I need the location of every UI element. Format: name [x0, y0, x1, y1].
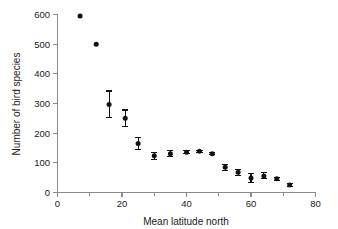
data-point — [287, 183, 293, 188]
data-point — [167, 151, 173, 157]
data-point — [261, 173, 267, 179]
marker-dot — [249, 175, 254, 180]
marker-dot — [223, 165, 228, 170]
y-tick-label: 400 — [34, 68, 50, 79]
data-point — [196, 149, 202, 154]
scatter-plot: 0100200300400500600020406080 Mean latitu… — [0, 0, 338, 229]
x-tick-label: 80 — [310, 198, 321, 209]
x-tick-label: 60 — [246, 198, 257, 209]
data-point — [151, 152, 157, 159]
data-point — [135, 138, 141, 150]
y-tick-label: 600 — [34, 9, 50, 20]
marker-dot — [210, 151, 215, 156]
data-point — [183, 150, 189, 155]
x-tick-label: 20 — [117, 198, 128, 209]
data-point — [209, 151, 215, 156]
y-tick-label: 500 — [34, 39, 50, 50]
data-point — [222, 164, 228, 170]
data-point — [235, 169, 241, 175]
y-tick-label: 100 — [34, 157, 50, 168]
marker-dot — [197, 149, 202, 154]
axes — [58, 15, 316, 193]
data-point — [122, 110, 128, 127]
marker-dot — [107, 102, 112, 107]
marker-dot — [236, 170, 241, 175]
axis-spines — [58, 15, 316, 193]
x-tick-label: 40 — [181, 198, 192, 209]
y-axis-title: Number of bird species — [11, 53, 22, 156]
y-tick-label: 0 — [45, 187, 50, 198]
x-axis-title: Mean latitude north — [143, 216, 229, 227]
marker-dot — [94, 42, 99, 47]
marker-dot — [168, 151, 173, 156]
y-tick-label: 200 — [34, 128, 50, 139]
x-tick-label: 0 — [55, 198, 60, 209]
data-point — [106, 91, 112, 118]
marker-dot — [136, 141, 141, 146]
axis-ticks — [53, 15, 316, 198]
data-point — [248, 174, 254, 182]
marker-dot — [123, 116, 128, 121]
data-points — [78, 13, 293, 187]
marker-dot — [184, 150, 189, 155]
marker-dot — [261, 173, 266, 178]
data-point — [78, 13, 83, 18]
marker-dot — [152, 153, 157, 158]
marker-dot — [287, 183, 292, 188]
marker-dot — [78, 13, 83, 18]
data-point — [94, 42, 99, 47]
chart-figure: 0100200300400500600020406080 Mean latitu… — [0, 0, 338, 229]
y-tick-label: 300 — [34, 98, 50, 109]
marker-dot — [274, 176, 279, 181]
data-point — [274, 176, 280, 181]
